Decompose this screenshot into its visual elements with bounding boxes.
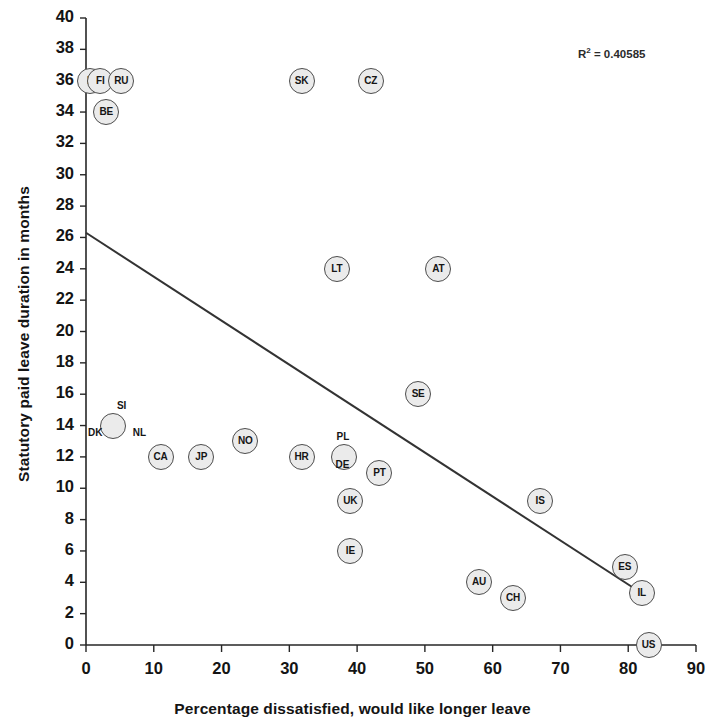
- trendline-path: [86, 233, 642, 594]
- data-point-label: UK: [343, 496, 357, 506]
- data-point-label-dk: DK: [88, 428, 102, 438]
- r-squared-value: = 0.40585: [591, 48, 646, 60]
- data-point-label: AT: [432, 264, 444, 274]
- data-point-label: IS: [536, 496, 545, 506]
- data-point-label: PT: [373, 468, 385, 478]
- data-point-label-de: DE: [336, 460, 350, 470]
- data-point-label: AU: [472, 577, 486, 587]
- data-point-pt: PT: [366, 460, 392, 486]
- data-point-label: HR: [295, 452, 309, 462]
- data-point-label: IL: [638, 588, 647, 598]
- data-point-label-pl: PL: [337, 432, 350, 442]
- data-point-is: IS: [527, 488, 553, 514]
- x-tick-label: 90: [674, 659, 710, 678]
- data-point-label: CH: [506, 593, 520, 603]
- x-tick-label: 20: [200, 659, 244, 678]
- y-axis-title: Statutory paid leave duration in months: [15, 124, 33, 544]
- data-point-label: RU: [114, 76, 128, 86]
- x-tick-label: 0: [64, 659, 108, 678]
- data-point-es: ES: [612, 554, 638, 580]
- y-tick-label: 34: [34, 101, 74, 120]
- trendline: [86, 233, 642, 594]
- x-tick-label: 50: [403, 659, 447, 678]
- x-tick-label: 30: [267, 659, 311, 678]
- data-point-ch: CH: [500, 585, 526, 611]
- data-point-label: LT: [331, 264, 342, 274]
- y-tick-label: 28: [34, 195, 74, 214]
- y-tick-label: 32: [34, 132, 74, 151]
- x-tick-label: 70: [538, 659, 582, 678]
- y-tick-label: 14: [34, 415, 74, 434]
- y-tick-label: 10: [34, 477, 74, 496]
- data-point-label: US: [642, 640, 656, 650]
- y-tick-label: 26: [34, 226, 74, 245]
- y-tick-label: 16: [34, 383, 74, 402]
- y-tick-label: 12: [34, 446, 74, 465]
- y-tick-label: 0: [34, 634, 74, 653]
- y-tick-label: 18: [34, 352, 74, 371]
- x-tick-label: 40: [335, 659, 379, 678]
- data-point-label-nl: NL: [133, 428, 146, 438]
- y-tick-label: 38: [34, 38, 74, 57]
- data-point-hr: HR: [289, 444, 315, 470]
- r-squared-annotation: R2 = 0.40585: [578, 46, 645, 60]
- y-tick-label: 20: [34, 321, 74, 340]
- data-point-label: SE: [412, 389, 425, 399]
- data-point-ca: CA: [148, 444, 174, 470]
- data-point-label: FI: [96, 76, 105, 86]
- data-point-il: IL: [629, 580, 655, 606]
- data-point-label: ES: [618, 562, 631, 572]
- x-axis-title: Percentage dissatisfied, would like long…: [0, 700, 705, 718]
- y-tick-label: 30: [34, 164, 74, 183]
- data-point-cz: CZ: [358, 68, 384, 94]
- y-tick-label: 8: [34, 509, 74, 528]
- data-point-uk: UK: [337, 488, 363, 514]
- data-point-ru: RU: [108, 68, 134, 94]
- data-point-sk: SK: [289, 68, 315, 94]
- y-tick-label: 4: [34, 571, 74, 590]
- axes-group: [80, 18, 696, 652]
- y-tick-label: 22: [34, 289, 74, 308]
- data-point-us: US: [636, 632, 662, 658]
- data-point-label: NO: [238, 436, 253, 446]
- data-point-dk: [100, 413, 126, 439]
- x-tick-label: 60: [471, 659, 515, 678]
- x-tick-label: 10: [132, 659, 176, 678]
- data-point-jp: JP: [188, 444, 214, 470]
- y-tick-label: 36: [34, 70, 74, 89]
- y-tick-label: 40: [34, 7, 74, 26]
- data-point-label: JP: [195, 452, 207, 462]
- x-tick-label: 80: [606, 659, 650, 678]
- y-tick-label: 24: [34, 258, 74, 277]
- data-point-label: BE: [100, 107, 114, 117]
- data-point-label: IE: [346, 546, 355, 556]
- data-point-lt: LT: [324, 256, 350, 282]
- data-point-label-si: SI: [117, 401, 126, 411]
- y-tick-label: 6: [34, 540, 74, 559]
- data-point-label: SK: [295, 76, 309, 86]
- data-point-label: CA: [154, 452, 168, 462]
- y-tick-label: 2: [34, 603, 74, 622]
- data-point-label: CZ: [364, 76, 377, 86]
